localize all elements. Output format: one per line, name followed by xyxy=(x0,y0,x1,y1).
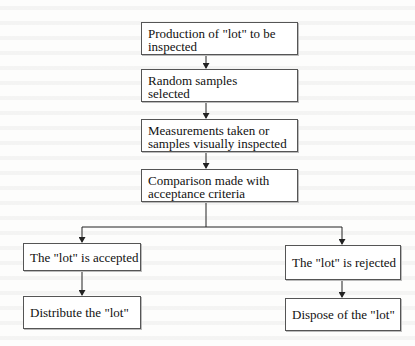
node-production-line-2: inspected xyxy=(148,40,297,53)
node-distribute-label: Distribute the "lot" xyxy=(30,306,129,319)
node-accepted: The "lot" is accepted xyxy=(23,243,141,271)
node-production: Production of "lot" to be inspected xyxy=(141,22,298,55)
node-measurement-line-2: samples visually inspected xyxy=(148,137,297,150)
node-dispose-label: Dispose of the "lot" xyxy=(292,308,395,321)
node-rejected: The "lot" is rejected xyxy=(285,245,401,280)
node-sampling: Random samples selected xyxy=(141,69,298,102)
node-sampling-line-2: selected xyxy=(148,87,297,100)
node-comparison-line-2: acceptance criteria xyxy=(148,187,297,200)
node-accepted-label: The "lot" is accepted xyxy=(30,251,138,264)
node-measurement: Measurements taken or samples visually i… xyxy=(141,119,298,152)
node-distribute: Distribute the "lot" xyxy=(23,296,141,329)
node-rejected-label: The "lot" is rejected xyxy=(292,256,396,269)
node-comparison: Comparison made with acceptance criteria xyxy=(141,169,298,202)
node-dispose: Dispose of the "lot" xyxy=(285,298,401,331)
